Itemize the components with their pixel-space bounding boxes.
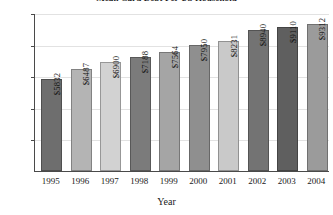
bar[interactable]: $8231 <box>218 41 239 171</box>
chart-title: Mean Card Debt Per US Household <box>0 0 333 3</box>
bar-value-label: $8940 <box>258 24 268 46</box>
bar-value-label: $9110 <box>288 21 298 43</box>
bar-value-label: $9312 <box>317 18 327 40</box>
bar-slot: $6487 <box>71 13 92 171</box>
bar-value-label: $5832 <box>52 73 62 95</box>
bar-slot: $8940 <box>248 13 269 171</box>
plot-area: $5832$6487$6900$7188$7564$7950$8231$8940… <box>34 14 329 172</box>
bar-slot: $7188 <box>130 13 151 171</box>
bar[interactable]: $7950 <box>189 45 210 171</box>
bar-slot: $5832 <box>41 13 62 171</box>
bar[interactable]: $7188 <box>130 57 151 171</box>
bar-value-label: $7564 <box>170 45 180 67</box>
bar[interactable]: $9110 <box>277 27 298 171</box>
bar-slot: $7950 <box>189 13 210 171</box>
bar-slot: $8231 <box>218 13 239 171</box>
bar-slot: $7564 <box>159 13 180 171</box>
bar-value-label: $6487 <box>81 62 91 84</box>
x-axis-label: Year <box>0 196 333 207</box>
bar[interactable]: $9312 <box>307 24 328 171</box>
bar-series: $5832$6487$6900$7188$7564$7950$8231$8940… <box>35 14 329 171</box>
bar-chart: Mean Card Debt Per US Household Debt (th… <box>0 0 333 215</box>
bar[interactable]: $6900 <box>100 62 121 171</box>
bar-value-label: $6900 <box>111 56 121 78</box>
bar[interactable]: $7564 <box>159 52 180 172</box>
x-tick-label: 2004 <box>296 176 333 186</box>
bar-slot: $6900 <box>100 13 121 171</box>
bar-slot: $9312 <box>307 13 328 171</box>
bar[interactable]: $8940 <box>248 30 269 171</box>
bar-value-label: $7188 <box>140 51 150 73</box>
bar-value-label: $7950 <box>199 39 209 61</box>
bar-value-label: $8231 <box>229 35 239 57</box>
bar[interactable]: $5832 <box>41 79 62 171</box>
bar[interactable]: $6487 <box>71 69 92 171</box>
bar-slot: $9110 <box>277 13 298 171</box>
